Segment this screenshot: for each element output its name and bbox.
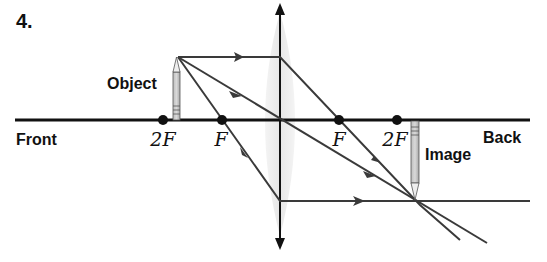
object-label: Object <box>107 75 157 92</box>
label-F-front: F <box>213 128 228 150</box>
lens-ray-diagram: 4. 2F F F 2F Object Image <box>0 0 547 262</box>
front-label: Front <box>16 131 58 148</box>
label-2F-front: 2F <box>149 128 176 150</box>
image-label: Image <box>425 146 471 163</box>
label-F-back: F <box>331 128 346 150</box>
lens-bottom-arrow-icon <box>275 238 285 250</box>
lens-top-arrow-icon <box>275 3 285 15</box>
focal-point-F-front <box>217 115 227 125</box>
focal-point-2F-front <box>158 115 168 125</box>
focal-ray <box>178 57 530 201</box>
label-2F-back: 2F <box>381 128 408 150</box>
object-pencil <box>173 57 180 120</box>
problem-number: 4. <box>16 10 33 32</box>
image-pencil <box>411 121 419 200</box>
back-label: Back <box>483 129 521 146</box>
focal-point-F-back <box>334 115 344 125</box>
focal-point-2F-back <box>392 115 402 125</box>
